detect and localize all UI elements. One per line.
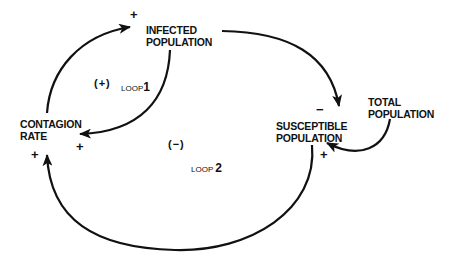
arrow-contagion-to-infected <box>47 27 130 113</box>
loop2-polarity: (−) <box>168 138 185 150</box>
node-total-population: TOTAL POPULATION <box>368 96 434 120</box>
arrow-infected-to-susceptible <box>222 31 339 106</box>
node-infected-population: INFECTED POPULATION <box>146 24 212 48</box>
loop1-label: LOOP1 <box>121 80 150 94</box>
polarity-contagion-loop1: + <box>76 140 84 153</box>
polarity-infected-in: + <box>130 8 138 21</box>
node-contagion-rate: CONTAGION RATE <box>20 118 82 142</box>
loop1-polarity: (+) <box>94 77 111 89</box>
polarity-contagion-loop2: + <box>31 148 39 161</box>
polarity-susceptible-total: + <box>320 148 328 161</box>
node-susceptible-population: SUSCEPTIBLE POPULATION <box>276 120 347 144</box>
arrow-susceptible-to-contagion <box>47 145 312 250</box>
loop2-label: LOOP 2 <box>191 161 222 175</box>
polarity-susceptible-infected: − <box>316 103 324 116</box>
